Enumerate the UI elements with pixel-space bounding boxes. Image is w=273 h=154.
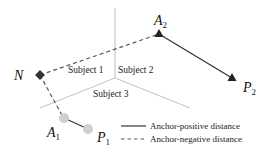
anchor-negative-lines — [40, 34, 159, 117]
dashed-N-A1 — [40, 75, 63, 117]
positive2-triangle-icon — [228, 73, 237, 81]
region-label-subject-1: Subject 1 — [68, 65, 104, 75]
negative-diamond-icon — [35, 70, 45, 80]
legend: Anchor-positive distance Anchor-negative… — [121, 121, 242, 144]
label-P1: P1 — [96, 130, 110, 147]
triplet-distance-diagram: Subject 1 Subject 2 Subject 3 N A2 P2 A1… — [0, 0, 273, 154]
anchor-positive-lines — [64, 34, 232, 129]
label-N: N — [13, 68, 24, 83]
region-label-subject-3: Subject 3 — [93, 89, 129, 99]
label-P2: P2 — [242, 80, 256, 97]
positive1-circle-icon — [83, 124, 93, 134]
legend-positive-label: Anchor-positive distance — [150, 121, 240, 131]
anchor2-triangle-icon — [155, 29, 164, 37]
label-A2: A2 — [153, 13, 167, 30]
anchor1-circle-icon — [59, 113, 69, 123]
legend-negative-label: Anchor-negative distance — [150, 134, 242, 144]
label-A1: A1 — [46, 125, 60, 142]
region-label-subject-2: Subject 2 — [118, 65, 154, 75]
solid-A2-P2 — [159, 34, 232, 78]
